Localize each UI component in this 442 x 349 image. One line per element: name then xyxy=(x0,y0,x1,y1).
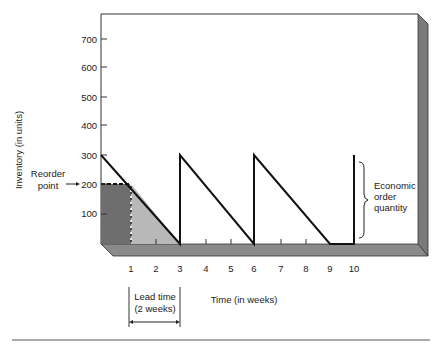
x-tick-labels: 1 2 3 4 5 6 7 8 9 10 xyxy=(128,263,359,274)
lead-time-label-line1: Lead time xyxy=(134,291,176,302)
svg-text:600: 600 xyxy=(81,62,97,73)
eoq-label-line2: order xyxy=(374,191,396,202)
y-axis-title: Inventory (in units) xyxy=(13,111,24,189)
svg-text:9: 9 xyxy=(327,263,332,274)
svg-text:7: 7 xyxy=(278,263,283,274)
svg-text:700: 700 xyxy=(81,34,97,45)
svg-text:3: 3 xyxy=(177,263,182,274)
inventory-chart: 100 200 300 400 500 600 700 1 2 3 4 5 6 … xyxy=(0,0,442,349)
reorder-label-line2: point xyxy=(38,180,59,191)
svg-text:1: 1 xyxy=(128,263,133,274)
eoq-label-line3: quantity xyxy=(374,202,408,213)
svg-text:200: 200 xyxy=(81,179,97,190)
svg-text:10: 10 xyxy=(349,263,360,274)
floor-band xyxy=(101,244,428,256)
eoq-brace-icon xyxy=(359,162,368,238)
svg-text:6: 6 xyxy=(251,263,256,274)
svg-text:100: 100 xyxy=(81,208,97,219)
right-wall xyxy=(418,14,428,256)
x-axis-title: Time (in weeks) xyxy=(211,294,278,305)
lead-time-label-line2: (2 weeks) xyxy=(134,303,175,314)
svg-text:4: 4 xyxy=(203,263,208,274)
svg-text:500: 500 xyxy=(81,92,97,103)
svg-text:5: 5 xyxy=(228,263,233,274)
eoq-label-line1: Economic xyxy=(374,180,416,191)
svg-text:2: 2 xyxy=(153,263,158,274)
svg-text:400: 400 xyxy=(81,120,97,131)
svg-text:8: 8 xyxy=(303,263,308,274)
reorder-label-line1: Reorder xyxy=(31,168,65,179)
y-tick-labels: 100 200 300 400 500 600 700 xyxy=(81,34,97,219)
svg-text:300: 300 xyxy=(81,150,97,161)
